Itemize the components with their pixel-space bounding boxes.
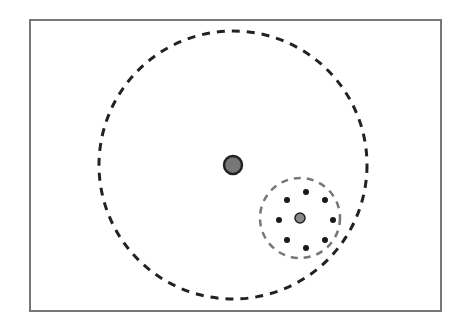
diagram-canvas	[0, 0, 457, 332]
satellite-dot	[276, 217, 282, 223]
satellite-dot	[303, 189, 309, 195]
satellite-dot	[284, 237, 290, 243]
small-center-node	[295, 213, 305, 223]
satellite-dot	[284, 197, 290, 203]
large-center-node	[224, 156, 242, 174]
satellite-dot	[322, 197, 328, 203]
satellite-dots	[276, 189, 336, 251]
satellite-dot	[322, 237, 328, 243]
satellite-dot	[303, 245, 309, 251]
satellite-dot	[330, 217, 336, 223]
